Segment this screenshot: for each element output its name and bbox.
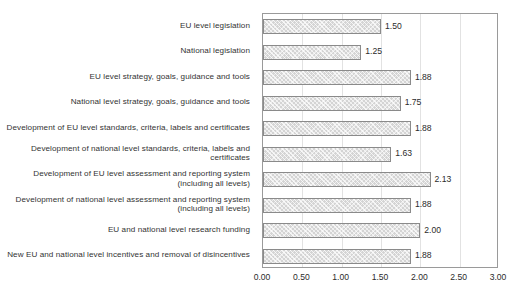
category-label: New EU and national level incentives and… <box>0 250 250 260</box>
value-label: 1.88 <box>415 123 432 133</box>
value-data-labels: 1.501.251.881.751.881.632.131.882.001.88 <box>262 13 512 268</box>
category-label: EU level strategy, goals, guidance and t… <box>0 72 250 82</box>
x-tick-label: 1.00 <box>332 272 349 283</box>
value-label: 1.88 <box>415 72 432 82</box>
x-tick-label: 2.50 <box>450 272 467 283</box>
x-tick-label: 1.50 <box>372 272 389 283</box>
category-label: Development of national level assessment… <box>0 195 250 214</box>
bar-chart: EU level legislationNational legislation… <box>0 0 520 301</box>
value-label: 1.25 <box>365 46 382 56</box>
category-label: Development of EU level standards, crite… <box>0 123 250 133</box>
category-label: Development of EU level assessment and r… <box>0 169 250 188</box>
category-label: National level strategy, goals, guidance… <box>0 97 250 107</box>
x-tick-label: 2.00 <box>411 272 428 283</box>
value-label: 1.88 <box>415 199 432 209</box>
x-tick-label: 0.50 <box>293 272 310 283</box>
value-label: 1.63 <box>395 148 412 158</box>
category-label: National legislation <box>0 46 250 56</box>
value-label: 1.75 <box>405 97 422 107</box>
value-label: 1.88 <box>415 250 432 260</box>
value-label: 1.50 <box>385 21 402 31</box>
value-label: 2.00 <box>424 225 441 235</box>
x-axis-tick-labels: 0.000.501.001.502.002.503.00 <box>262 272 498 286</box>
category-label: EU level legislation <box>0 21 250 31</box>
x-tick-label: 3.00 <box>490 272 507 283</box>
x-tick-label: 0.00 <box>254 272 271 283</box>
category-label: Development of national level standards,… <box>0 144 250 163</box>
value-label: 2.13 <box>435 174 452 184</box>
category-label: EU and national level research funding <box>0 225 250 235</box>
category-axis-labels: EU level legislationNational legislation… <box>0 13 256 268</box>
